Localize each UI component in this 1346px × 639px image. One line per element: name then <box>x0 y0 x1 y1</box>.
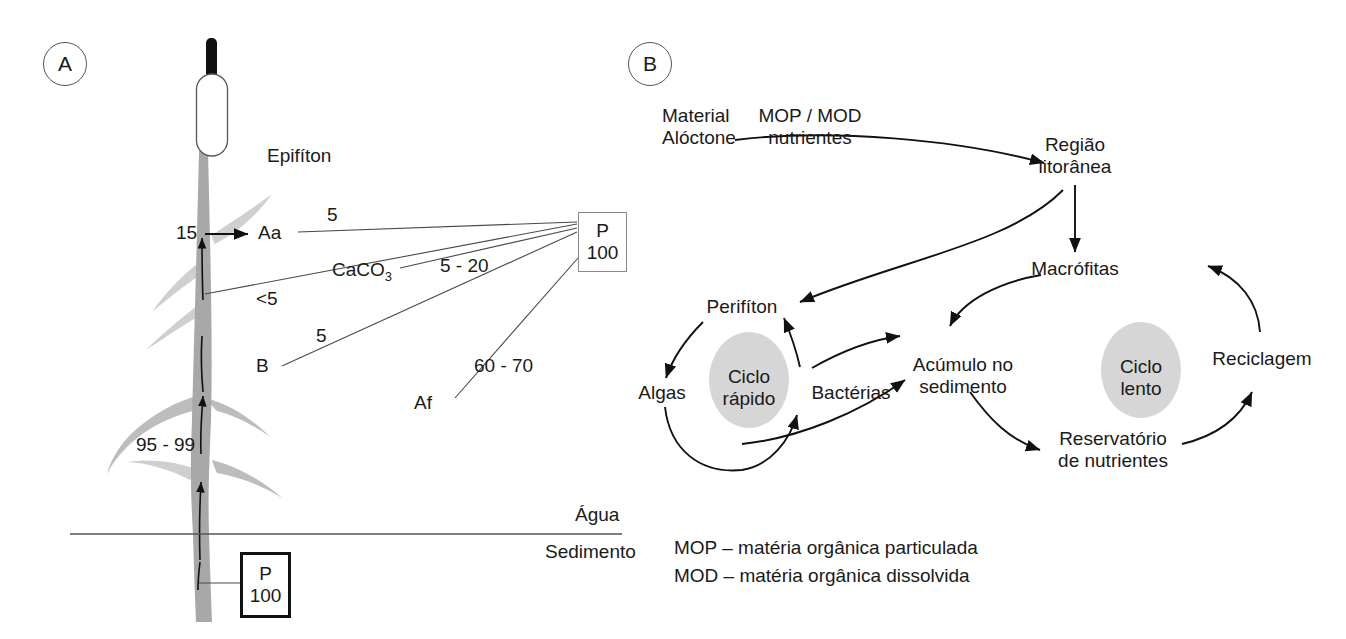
node-perifiton: Perifíton <box>707 296 778 318</box>
edge-regiao-to-perifiton <box>800 190 1063 302</box>
node-acumulo-sedimento: Acúmulo no sedimento <box>913 354 1013 399</box>
edge-macrofitas-to-acumulo <box>950 275 1041 326</box>
node-algas: Algas <box>638 382 686 404</box>
label-ciclo-rapido: Ciclo rápido <box>723 366 776 411</box>
node-reciclagem: Reciclagem <box>1212 348 1311 370</box>
node-material-alloctone: Material Alóctone <box>662 105 736 150</box>
node-bacterias: Bactérias <box>811 382 890 404</box>
panel-b-graphics <box>0 0 1346 639</box>
edge-acumulo-to-reservatorio <box>970 392 1040 450</box>
figure-canvas: A <box>0 0 1346 639</box>
legend-line-mop: MOP – matéria orgânica particulada <box>674 534 978 562</box>
edge-bacterias-to-perifiton <box>784 318 800 367</box>
legend-line-mod: MOD – matéria orgânica dissolvida <box>674 562 978 590</box>
edge-bacterias-to-acumulo <box>812 336 900 368</box>
node-macrofitas: Macrófitas <box>1031 258 1119 280</box>
node-reservatorio: Reservatório de nutrientes <box>1058 428 1168 473</box>
label-ciclo-lento: Ciclo lento <box>1120 356 1162 401</box>
node-regiao-litoranea: Região litorânea <box>1039 134 1112 179</box>
edge-reciclagem-to-macrofitas <box>1208 266 1260 332</box>
edge-perifiton-to-algas <box>666 322 703 378</box>
edge-reservatorio-to-reciclagem <box>1182 392 1252 444</box>
legend-block: MOP – matéria orgânica particulada MOD –… <box>674 534 978 589</box>
node-mop-mod: MOP / MOD nutrientes <box>758 105 861 150</box>
